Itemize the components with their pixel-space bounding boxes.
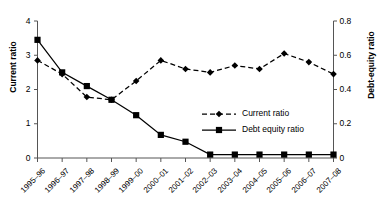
data-point-diamond [330, 71, 337, 78]
data-point-square [182, 139, 188, 145]
data-point-square [34, 37, 40, 43]
legend-item-label: Current ratio [242, 108, 289, 118]
data-point-square [232, 151, 238, 157]
data-point-diamond [281, 50, 288, 57]
legend-item-label: Debt equity ratio [242, 124, 304, 134]
data-point-diamond [256, 66, 263, 73]
data-point-diamond [207, 69, 214, 76]
plot-area [0, 0, 392, 206]
data-point-square [306, 151, 312, 157]
data-point-diamond [182, 66, 189, 73]
data-point-square [158, 132, 164, 138]
data-point-diamond [34, 57, 41, 64]
data-point-diamond [306, 59, 313, 66]
data-point-square [133, 112, 139, 118]
series-line [38, 54, 334, 100]
series-line [38, 40, 334, 155]
data-point-square [256, 151, 262, 157]
data-point-square [207, 151, 213, 157]
data-point-square [216, 127, 222, 133]
chart-figure: Current ratio Debt-equity ratio 01234 00… [0, 0, 392, 206]
data-point-diamond [216, 111, 223, 118]
data-point-square [281, 151, 287, 157]
data-point-square [84, 83, 90, 89]
data-point-diamond [232, 62, 239, 69]
data-point-square [330, 151, 336, 157]
